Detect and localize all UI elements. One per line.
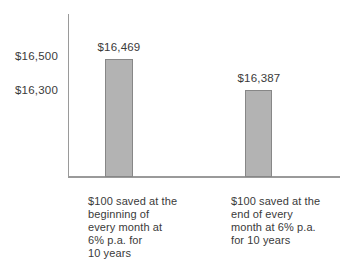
bar-caption-beginning: $100 saved at the beginning of every mon… (88, 195, 208, 260)
bar-beginning-of-month (105, 59, 133, 177)
caption-line: beginning of (88, 208, 208, 221)
y-tick-label-16500: $16,500 (6, 50, 58, 62)
bar-caption-end: $100 saved at the end of every month at … (231, 195, 351, 247)
caption-line: end of every (231, 208, 351, 221)
y-tick-label-16300: $16,300 (6, 84, 58, 96)
bar-value-label-beginning: $16,469 (89, 41, 149, 53)
caption-line: $100 saved at the (231, 195, 351, 208)
caption-line: 6% p.a. for (88, 234, 208, 247)
caption-line: every month at (88, 221, 208, 234)
bar-chart: $16,500 $16,300 $16,469 $16,387 $100 sav… (0, 0, 351, 273)
caption-line: month at 6% p.a. (231, 221, 351, 234)
bar-value-label-end: $16,387 (229, 72, 289, 84)
caption-line: $100 saved at the (88, 195, 208, 208)
caption-line: 10 years (88, 247, 208, 260)
caption-line: for 10 years (231, 234, 351, 247)
y-axis-line (68, 14, 69, 177)
bar-end-of-month (245, 90, 272, 177)
